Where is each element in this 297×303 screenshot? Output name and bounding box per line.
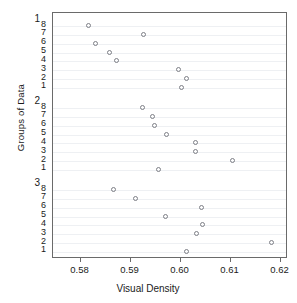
gridline xyxy=(53,190,286,191)
data-point xyxy=(156,167,161,172)
data-point xyxy=(199,205,204,210)
x-tick-mark xyxy=(80,258,81,262)
gridline xyxy=(53,208,286,209)
gridline xyxy=(53,70,286,71)
x-tick-mark xyxy=(130,258,131,262)
x-tick-label: 0.58 xyxy=(60,264,100,275)
scatter-chart: Groups of Data 1876543212876543213876543… xyxy=(0,0,296,303)
gridline xyxy=(53,79,286,80)
y-subtick-label: 1 xyxy=(32,246,46,254)
data-point xyxy=(111,187,116,192)
data-point xyxy=(86,23,91,28)
data-point xyxy=(269,240,274,245)
gridline xyxy=(53,170,286,171)
data-point xyxy=(176,67,181,72)
gridline xyxy=(53,117,286,118)
y-subtick-label: 1 xyxy=(32,82,46,90)
data-point xyxy=(140,105,145,110)
data-point xyxy=(179,85,184,90)
gridline xyxy=(53,35,286,36)
data-point xyxy=(107,50,112,55)
data-point xyxy=(141,32,146,37)
y-subtick-label: 1 xyxy=(32,164,46,172)
x-axis-label: Visual Density xyxy=(0,283,296,294)
data-point xyxy=(114,58,119,63)
gridline xyxy=(53,126,286,127)
x-tick-mark xyxy=(180,258,181,262)
gridline xyxy=(53,61,286,62)
data-point xyxy=(230,158,235,163)
gridline xyxy=(53,161,286,162)
gridline xyxy=(53,234,286,235)
x-tick-label: 0.61 xyxy=(210,264,250,275)
gridline xyxy=(53,252,286,253)
data-point xyxy=(93,41,98,46)
x-tick-mark xyxy=(280,258,281,262)
data-point xyxy=(184,76,189,81)
gridline xyxy=(53,225,286,226)
plot-area xyxy=(52,12,287,258)
gridline xyxy=(53,44,286,45)
data-point xyxy=(193,140,198,145)
data-point xyxy=(184,249,189,254)
y-axis-label: Groups of Data xyxy=(15,48,26,188)
data-point xyxy=(163,214,168,219)
data-point xyxy=(193,149,198,154)
data-point xyxy=(164,132,169,137)
x-tick-label: 0.59 xyxy=(110,264,150,275)
gridline xyxy=(53,135,286,136)
gridline xyxy=(53,217,286,218)
data-point xyxy=(150,114,155,119)
gridline xyxy=(53,243,286,244)
x-tick-label: 0.60 xyxy=(160,264,200,275)
gridline xyxy=(53,152,286,153)
data-point xyxy=(194,231,199,236)
x-tick-mark xyxy=(230,258,231,262)
data-point xyxy=(152,123,157,128)
gridline xyxy=(53,108,286,109)
gridline xyxy=(53,88,286,89)
x-tick-label: 0.62 xyxy=(260,264,297,275)
data-point xyxy=(200,222,205,227)
data-point xyxy=(133,196,138,201)
gridline xyxy=(53,53,286,54)
gridline xyxy=(53,143,286,144)
gridline xyxy=(53,199,286,200)
